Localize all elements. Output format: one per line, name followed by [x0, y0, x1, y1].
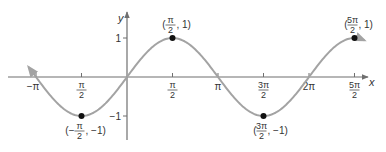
svg-text:3π: 3π	[256, 121, 267, 131]
point-label-fraction: π2	[166, 15, 176, 35]
x-tick-label: π2	[76, 80, 86, 100]
svg-text:, 1): , 1)	[358, 19, 372, 30]
svg-text:(−: (−	[65, 125, 74, 136]
svg-text:, −1): , −1)	[268, 125, 288, 136]
x-tick-label: 5π2	[349, 80, 360, 100]
x-tick-label: −π	[27, 81, 40, 92]
svg-text:2: 2	[259, 131, 264, 141]
svg-text:π: π	[169, 80, 175, 90]
svg-text:(: (	[162, 19, 166, 30]
svg-text:2: 2	[168, 25, 173, 35]
svg-text:5π: 5π	[349, 80, 360, 90]
sine-graph: x y −ππ2π2π3π22π5π21−1 (−π2, −1)(π2, 1)(…	[0, 0, 386, 152]
svg-text:2: 2	[261, 90, 266, 100]
svg-text:2: 2	[350, 25, 355, 35]
point-label: (π2, 1)	[162, 15, 191, 35]
point-label-fraction: π2	[74, 121, 84, 141]
x-tick-label: π	[215, 81, 222, 92]
svg-text:2: 2	[352, 90, 357, 100]
point-marker	[78, 113, 84, 119]
point-marker	[351, 35, 357, 41]
y-axis-label: y	[117, 12, 125, 24]
point-marker	[261, 113, 267, 119]
svg-text:π: π	[76, 121, 82, 131]
x-tick-label: π2	[168, 80, 178, 100]
svg-text:π: π	[167, 15, 173, 25]
x-axis-label: x	[368, 76, 375, 88]
axes: x y	[8, 12, 375, 140]
svg-text:2: 2	[79, 90, 84, 100]
svg-text:5π: 5π	[347, 15, 358, 25]
point-label-fraction: 5π2	[347, 15, 358, 35]
x-tick-label: 3π2	[258, 80, 269, 100]
point-label: (5π2, 1)	[344, 15, 373, 35]
y-tick-label: −1	[110, 111, 122, 122]
point-marker	[170, 35, 176, 41]
svg-text:π: π	[78, 80, 84, 90]
point-label-fraction: 3π2	[256, 121, 267, 141]
svg-text:2: 2	[170, 90, 175, 100]
svg-text:3π: 3π	[258, 80, 269, 90]
svg-text:, −1): , −1)	[85, 125, 105, 136]
point-label: (3π2, −1)	[253, 121, 288, 141]
svg-text:, 1): , 1)	[177, 19, 191, 30]
y-tick-label: 1	[115, 33, 121, 44]
point-label: (−π2, −1)	[65, 121, 105, 141]
svg-text:2: 2	[77, 131, 82, 141]
